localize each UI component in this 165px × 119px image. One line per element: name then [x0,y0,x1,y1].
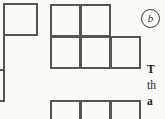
body-text-line: T [147,61,165,77]
body-text-line: th [147,77,165,93]
figure-label-b: b [141,9,160,28]
grid-cell [110,100,141,119]
grid-cell [50,100,81,119]
grid-cell [80,100,111,119]
body-text-line: a [147,93,165,109]
figure-page: b Ttha [0,0,165,119]
body-text-column: Ttha [147,61,165,109]
